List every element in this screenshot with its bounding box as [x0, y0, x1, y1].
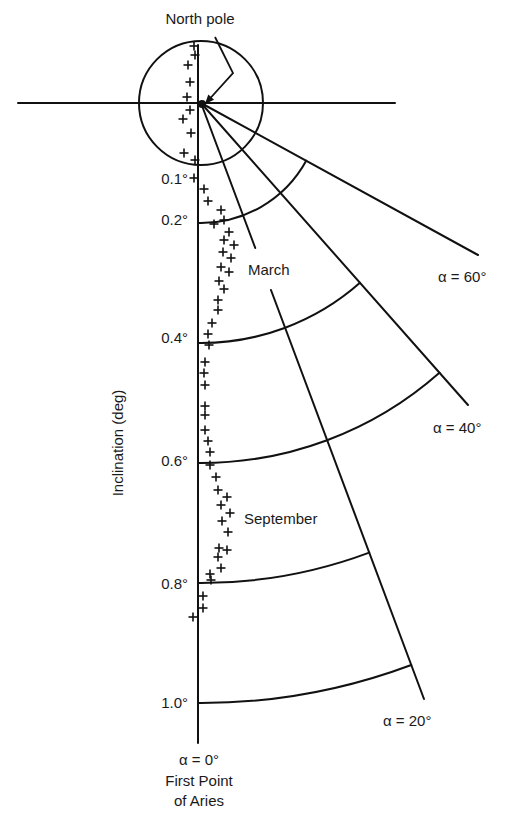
plus-marker — [199, 592, 208, 601]
plus-marker — [200, 185, 209, 194]
plus-marker — [212, 473, 221, 482]
plus-marker — [179, 115, 188, 124]
radial-tick-labels: 0.1°0.2°0.4°0.6°0.8°1.0° — [161, 170, 188, 711]
plus-marker — [206, 448, 215, 457]
radial-tick-label: 0.1° — [161, 170, 188, 187]
plus-marker — [220, 236, 229, 245]
plus-marker — [225, 268, 234, 277]
plus-marker — [189, 613, 198, 622]
plus-marker — [217, 263, 226, 272]
plus-marker — [204, 330, 213, 339]
plus-marker — [214, 306, 223, 315]
radial-tick-label: 0.4° — [161, 329, 188, 346]
march-label: March — [248, 261, 290, 278]
radial-tick-label: 0.6° — [161, 452, 188, 469]
plus-marker — [208, 319, 217, 328]
plus-marker — [220, 216, 229, 225]
plus-marker — [184, 61, 193, 70]
plus-marker — [227, 254, 236, 263]
alpha-20-line — [201, 103, 255, 248]
plus-marker — [186, 78, 195, 87]
plus-marker — [220, 285, 229, 294]
alpha-tick-label: α = 20° — [383, 712, 431, 729]
plus-marker — [223, 493, 232, 502]
plus-marker — [215, 277, 224, 286]
pole-point — [198, 100, 206, 108]
plus-marker — [200, 369, 209, 378]
plus-marker — [201, 358, 210, 367]
alpha-40-line — [201, 103, 468, 405]
inclination-arc-0.2 — [198, 161, 306, 223]
plus-marker — [210, 220, 219, 229]
plus-marker — [204, 437, 213, 446]
of-aries-label: of Aries — [174, 792, 224, 809]
north-pole-label: North pole — [165, 10, 234, 27]
alpha-labels: α = 60°α = 40°α = 20° — [383, 268, 486, 729]
alpha-tick-label: α = 40° — [433, 419, 481, 436]
plus-marker — [218, 517, 227, 526]
september-label: September — [244, 510, 317, 527]
plus-marker — [217, 206, 226, 215]
plus-marker — [201, 426, 210, 435]
plus-marker — [201, 411, 210, 420]
alpha-20-line — [271, 290, 424, 699]
plus-marker — [219, 248, 228, 257]
first-point-label: First Point — [165, 772, 233, 789]
plus-marker — [187, 129, 196, 138]
origin-alpha-label: α = 0° — [179, 751, 219, 768]
plus-marker — [201, 381, 210, 390]
alpha-60-line — [201, 103, 478, 255]
plus-marker — [199, 604, 208, 613]
plus-marker — [214, 486, 223, 495]
plus-marker — [223, 546, 232, 555]
plus-marker — [226, 509, 235, 518]
alpha-tick-label: α = 60° — [438, 268, 486, 285]
plus-marker — [230, 241, 239, 250]
plus-marker — [214, 296, 223, 305]
plus-marker — [217, 564, 226, 573]
plus-marker — [215, 544, 224, 553]
plus-marker — [214, 553, 223, 562]
radial-tick-label: 1.0° — [161, 694, 188, 711]
plus-marker — [183, 93, 192, 102]
plus-marker — [201, 402, 210, 411]
inclination-polar-diagram: 0.1°0.2°0.4°0.6°0.8°1.0° α = 60°α = 40°α… — [0, 0, 527, 827]
plus-marker — [186, 106, 195, 115]
plus-marker — [217, 501, 226, 510]
plus-marker — [180, 149, 189, 158]
plus-marker — [206, 570, 215, 579]
plus-marker — [224, 528, 233, 537]
inclination-arc-1 — [198, 665, 411, 703]
radial-tick-label: 0.2° — [161, 211, 188, 228]
plus-marker — [204, 197, 213, 206]
plus-marker — [225, 228, 234, 237]
polar-grid — [18, 37, 478, 743]
y-axis-title: Inclination (deg) — [109, 390, 126, 497]
radial-tick-label: 0.8° — [161, 575, 188, 592]
